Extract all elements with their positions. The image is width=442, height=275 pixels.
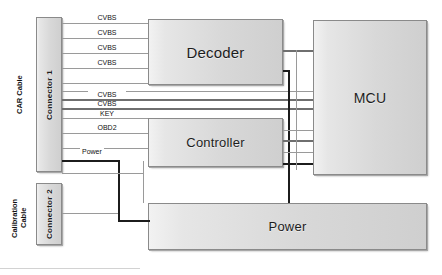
signal-label-cvbs-1: CVBS	[88, 14, 126, 22]
wire-channel-guide-bottom	[283, 152, 313, 153]
signal-label-cvbs-3: CVBS	[88, 44, 126, 52]
block-diagram: CAR Cable Calibration Cable Connector 1 …	[0, 0, 442, 275]
block-connector-2-label: Connector 2	[45, 189, 54, 239]
wire-channel-guide-top	[283, 130, 313, 131]
block-power[interactable]: Power	[148, 203, 427, 250]
block-controller-label: Controller	[186, 135, 244, 150]
wire-main-bus-vertical	[288, 70, 290, 203]
wire-connector-2-out	[62, 213, 118, 214]
signal-label-key: KEY	[88, 110, 126, 118]
wire-cvbs-2	[62, 38, 148, 39]
signal-label-cvbs-6: CVBS	[88, 100, 126, 108]
wire-power-guide-vertical	[143, 161, 144, 203]
wire-cvbs-3	[62, 53, 148, 54]
block-connector-1-label: Connector 1	[45, 70, 54, 120]
block-power-label: Power	[269, 219, 307, 234]
wire-power-in-horizontal-bottom	[118, 220, 150, 222]
cable-caption-car-cable: CAR Cable	[14, 45, 26, 145]
wire-main-bus-decoder-stub	[283, 70, 290, 72]
wire-power-in-vertical	[118, 160, 120, 222]
block-controller[interactable]: Controller	[148, 118, 283, 167]
signal-label-power-in: Power	[80, 148, 104, 156]
signal-label-cvbs-2: CVBS	[88, 29, 126, 37]
wire-cvbs-1	[62, 23, 148, 24]
block-mcu-label: MCU	[354, 90, 386, 106]
wire-controller-to-mcu-2	[283, 163, 313, 165]
cable-caption-calibration-cable: Calibration Cable	[12, 188, 28, 248]
signal-label-cvbs-4: CVBS	[88, 59, 126, 67]
wire-cvbs-4	[62, 68, 148, 69]
wire-controller-to-mcu-1	[283, 140, 313, 142]
block-mcu[interactable]: MCU	[313, 20, 427, 175]
wire-power-guide-horizontal	[62, 173, 144, 174]
block-connector-2[interactable]: Connector 2	[36, 183, 62, 245]
block-connector-1[interactable]: Connector 1	[36, 17, 62, 172]
signal-label-obd2: OBD2	[88, 124, 126, 132]
footer-divider	[0, 268, 140, 269]
signal-label-cvbs-5: CVBS	[88, 91, 126, 99]
block-decoder[interactable]: Decoder	[148, 19, 283, 85]
block-decoder-label: Decoder	[186, 44, 244, 61]
wire-obd2-return	[62, 148, 148, 149]
wire-power-in-horizontal-top	[62, 160, 120, 162]
wire-decoder-to-mcu	[283, 50, 313, 52]
wire-key	[62, 118, 148, 119]
wire-obd2	[62, 133, 148, 134]
wire-cvbs-4-return	[62, 83, 148, 84]
